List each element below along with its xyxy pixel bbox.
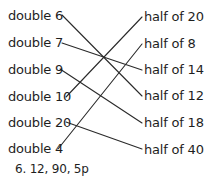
left-item-double-4: double 4	[8, 141, 63, 156]
right-item-half-of-14: half of 14	[144, 62, 204, 77]
left-item-double-9: double 9	[8, 62, 63, 77]
answer-footer-text: 6. 12, 90, 5p	[15, 162, 89, 176]
right-item-half-of-40: half of 40	[144, 142, 204, 157]
connector-line	[66, 122, 142, 149]
connector-line	[62, 15, 142, 96]
right-item-half-of-12: half of 12	[144, 88, 204, 103]
right-item-half-of-20: half of 20	[144, 9, 204, 24]
left-item-double-10: double 10	[8, 89, 71, 104]
connector-line	[62, 43, 142, 70]
left-item-double-6: double 6	[8, 8, 63, 23]
right-item-half-of-8: half of 8	[144, 36, 196, 51]
right-item-half-of-18: half of 18	[144, 115, 204, 130]
left-item-double-20: double 20	[8, 115, 71, 130]
left-item-double-7: double 7	[8, 35, 63, 50]
